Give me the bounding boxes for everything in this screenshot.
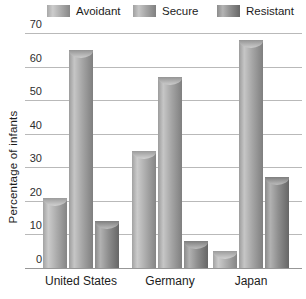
bar-japan-secure bbox=[239, 40, 263, 268]
gridline-0 bbox=[25, 268, 302, 269]
gridline-70 bbox=[25, 33, 302, 34]
bar-germany-secure bbox=[158, 77, 182, 268]
y-tick-70: 70 bbox=[10, 18, 42, 31]
x-category-label-united-states: United States bbox=[45, 274, 117, 288]
bar-germany-resistant bbox=[184, 241, 208, 268]
plot-area: 010203040506070United StatesGermanyJapan bbox=[0, 0, 306, 299]
x-category-label-germany: Germany bbox=[145, 274, 194, 288]
bar-united-states-secure bbox=[69, 50, 93, 268]
bar-united-states-avoidant bbox=[43, 198, 67, 269]
bar-japan-resistant bbox=[265, 177, 289, 268]
y-tick-0: 0 bbox=[10, 253, 42, 266]
bar-united-states-resistant bbox=[95, 221, 119, 268]
bar-germany-avoidant bbox=[132, 151, 156, 269]
attachment-bar-chart: Avoidant Secure Resistant Percentage of … bbox=[0, 0, 306, 299]
y-tick-50: 50 bbox=[10, 85, 42, 98]
y-tick-60: 60 bbox=[10, 52, 42, 65]
y-tick-20: 20 bbox=[10, 186, 42, 199]
x-category-label-japan: Japan bbox=[235, 274, 268, 288]
bar-japan-avoidant bbox=[213, 251, 237, 268]
y-tick-40: 40 bbox=[10, 119, 42, 132]
y-tick-10: 10 bbox=[10, 219, 42, 232]
y-tick-30: 30 bbox=[10, 152, 42, 165]
